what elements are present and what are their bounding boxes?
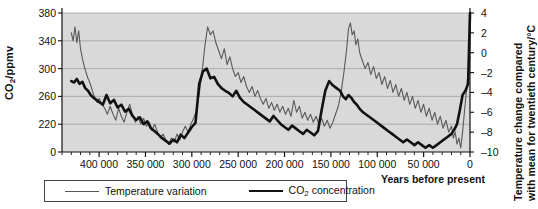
legend-swatch-temperature-icon xyxy=(65,191,99,192)
x-axis-tick-labels: 400 000350 000300 000250 000200 000150 0… xyxy=(0,0,538,209)
co2-temperature-chart: CO2/ppmv Temperature change compared wit… xyxy=(0,0,538,209)
x-tick-100000: 100 000 xyxy=(358,158,396,170)
x-tick-150000: 150 000 xyxy=(312,158,350,170)
legend-label-temperature: Temperature variation xyxy=(105,185,207,197)
legend-item-co2: CO2 concentration xyxy=(249,184,375,198)
x-tick-300000: 300 000 xyxy=(173,158,211,170)
x-tick-250000: 250 000 xyxy=(219,158,257,170)
x-tick-350000: 350 000 xyxy=(126,158,164,170)
x-tick-0: 0 xyxy=(467,158,473,170)
legend-swatch-co2-icon xyxy=(249,190,283,192)
legend: Temperature variation CO2 concentration xyxy=(44,180,347,202)
x-tick-200000: 200 000 xyxy=(266,158,304,170)
x-tick-400000: 400 000 xyxy=(80,158,118,170)
x-tick-50000: 50 000 xyxy=(408,158,440,170)
legend-label-co2: CO2 concentration xyxy=(289,184,375,198)
legend-item-temperature: Temperature variation xyxy=(65,185,207,197)
